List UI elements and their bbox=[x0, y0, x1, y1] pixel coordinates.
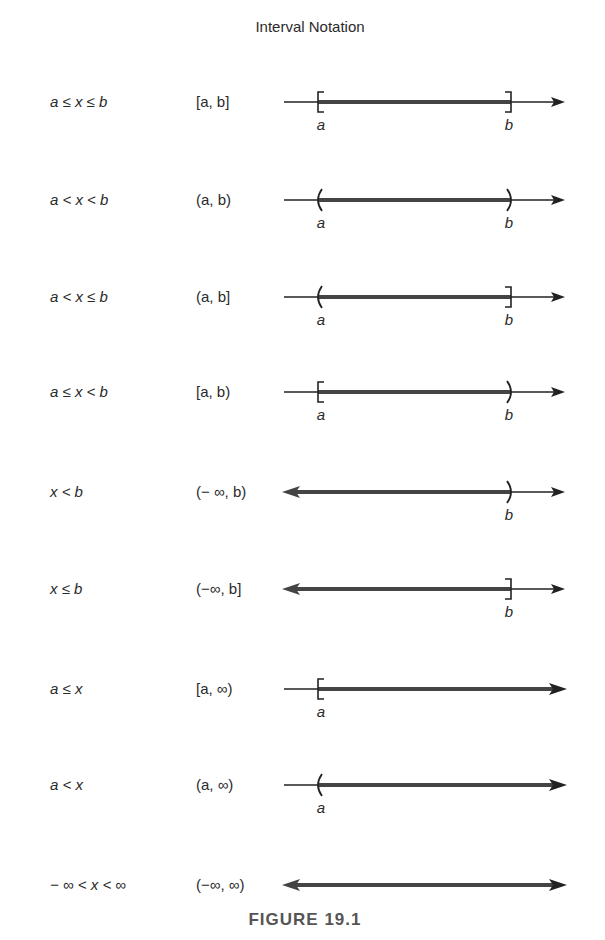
interval-row: a ≤ x ≤ b[a, b]ab bbox=[0, 92, 605, 152]
number-line: b bbox=[0, 462, 605, 542]
interval-row: a < x ≤ b(a, b]ab bbox=[0, 287, 605, 347]
endpoint-label-a: a bbox=[317, 799, 325, 816]
number-line: b bbox=[0, 559, 605, 639]
endpoint-label-b: b bbox=[505, 311, 513, 328]
endpoint-label-b: b bbox=[505, 116, 513, 133]
endpoint-label-a: a bbox=[317, 406, 325, 423]
number-line: ab bbox=[0, 170, 605, 250]
endpoint-label-a: a bbox=[317, 703, 325, 720]
number-line: ab bbox=[0, 362, 605, 442]
endpoint-label-b: b bbox=[505, 214, 513, 231]
interval-row: a < x(a, ∞)a bbox=[0, 775, 605, 835]
interval-row: x ≤ b(−∞, b]b bbox=[0, 579, 605, 639]
interval-row: a ≤ x[a, ∞)a bbox=[0, 679, 605, 739]
endpoint-label-b: b bbox=[505, 406, 513, 423]
interval-row: a ≤ x < b[a, b)ab bbox=[0, 382, 605, 442]
number-line: ab bbox=[0, 72, 605, 152]
number-line: a bbox=[0, 755, 605, 835]
endpoint-label-b: b bbox=[505, 603, 513, 620]
endpoint-label-a: a bbox=[317, 116, 325, 133]
figure-caption: FIGURE 19.1 bbox=[0, 910, 605, 930]
number-line: ab bbox=[0, 267, 605, 347]
interval-row: a < x < b(a, b)ab bbox=[0, 190, 605, 250]
endpoint-label-a: a bbox=[317, 214, 325, 231]
interval-row: x < b(− ∞, b)b bbox=[0, 482, 605, 542]
endpoint-label-a: a bbox=[317, 311, 325, 328]
figure-title: Interval Notation bbox=[0, 18, 605, 35]
number-line: a bbox=[0, 659, 605, 739]
endpoint-label-b: b bbox=[505, 506, 513, 523]
